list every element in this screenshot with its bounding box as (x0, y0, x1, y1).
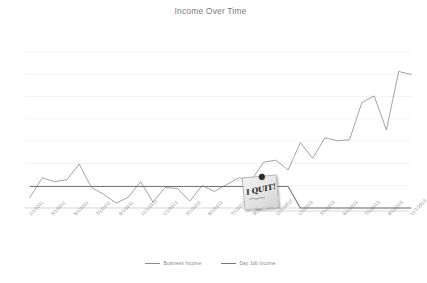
series-line-business-income (30, 72, 411, 204)
data-series-group (30, 72, 411, 209)
series-line-day-job-income (30, 187, 411, 208)
legend-label: Business Income (163, 261, 201, 266)
legend-entry[interactable]: Business Income (145, 261, 201, 266)
chart-legend: Business IncomeDay Job Income (0, 261, 421, 266)
legend-color-swatch (221, 263, 236, 264)
legend-color-swatch (145, 263, 160, 264)
legend-label: Day Job Income (239, 261, 275, 266)
i-quit-sticky-note[interactable]: I QUIT! (242, 175, 278, 209)
legend-entry[interactable]: Day Job Income (221, 261, 275, 266)
